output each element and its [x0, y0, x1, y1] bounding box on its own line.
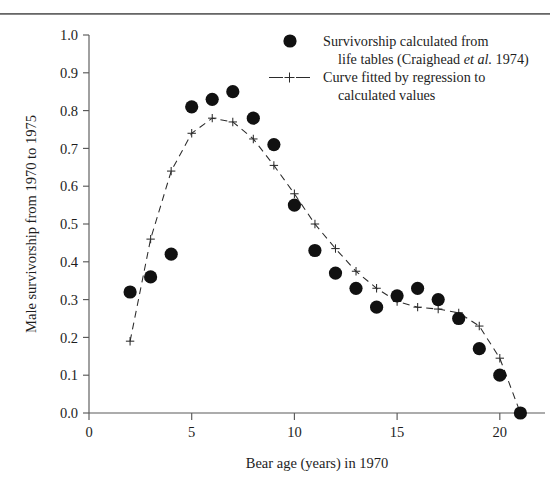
survivorship-data-point-series	[124, 85, 528, 420]
data-point-marker	[124, 285, 137, 298]
y-tick-label: 0.0	[60, 405, 78, 421]
data-point-marker	[473, 342, 486, 355]
y-tick-label: 0.9	[60, 65, 78, 81]
data-point-marker	[185, 100, 198, 113]
y-axis-tick-labels: 0.00.10.20.30.40.50.60.70.80.91.0	[60, 27, 79, 421]
x-tick-label: 5	[188, 424, 195, 440]
y-tick-label: 0.4	[60, 254, 79, 270]
fitted-curve-plus-marker	[290, 190, 298, 198]
legend-entry-1-line-2: calculated values	[338, 87, 436, 103]
data-point-marker	[206, 93, 219, 106]
data-point-marker	[247, 112, 260, 125]
legend-marker-filled-circle	[283, 34, 296, 47]
y-axis-title: Male survivorship from 1970 to 1975	[23, 115, 39, 333]
y-tick-label: 1.0	[60, 27, 78, 43]
data-point-marker	[144, 270, 157, 283]
x-tick-label: 0	[85, 424, 92, 440]
data-point-marker	[432, 293, 445, 306]
chart-legend: Survivorship calculated from life tables…	[269, 33, 529, 103]
fitted-curve-line	[130, 118, 520, 413]
data-point-marker	[452, 312, 465, 325]
data-point-marker	[308, 244, 321, 257]
y-tick-label: 0.1	[60, 367, 78, 383]
legend-entry-1-line-1: Curve fitted by regression to	[323, 69, 485, 85]
x-axis-title: Bear age (years) in 1970	[246, 455, 389, 472]
fitted-curve-plus-marker	[167, 167, 175, 175]
fitted-curve-plus-marker	[208, 114, 216, 122]
fitted-curve-plus-marker	[413, 303, 421, 311]
data-point-marker	[391, 289, 404, 302]
fitted-curve-plus-marker	[146, 235, 154, 243]
data-point-marker	[226, 85, 239, 98]
legend-entry-0-line-2: life tables (Craighead et al. 1974)	[338, 51, 529, 68]
fitted-curve-plus-marker	[496, 354, 504, 362]
x-tick-label: 15	[390, 424, 405, 440]
fitted-curve-plus-marker	[270, 161, 278, 169]
fitted-curve-plus-marker	[249, 135, 257, 143]
fitted-regression-curve-series	[126, 114, 525, 417]
x-tick-label: 20	[493, 424, 508, 440]
axes-group	[83, 35, 545, 420]
legend-entry-0-line-1: Survivorship calculated from	[323, 33, 488, 49]
fitted-curve-plus-marker	[126, 337, 134, 345]
fitted-curve-plus-marker	[475, 322, 483, 330]
y-tick-label: 0.2	[60, 330, 78, 346]
y-tick-label: 0.7	[60, 141, 78, 157]
y-tick-label: 0.5	[60, 216, 78, 232]
data-point-marker	[349, 282, 362, 295]
survivorship-scatter-chart: 0.00.10.20.30.40.50.60.70.80.91.0 051015…	[0, 0, 550, 499]
data-point-marker	[165, 248, 178, 261]
fitted-curve-plus-marker	[188, 129, 196, 137]
x-axis-ticks	[89, 413, 500, 420]
legend-entry-0-line-2-pre: life tables (Craighead	[338, 51, 464, 68]
legend-entry-0-citation-year: 1974)	[492, 51, 529, 68]
x-axis-tick-labels: 05101520	[85, 424, 507, 440]
legend-marker-plus-dashed-line	[269, 73, 310, 83]
data-point-marker	[514, 406, 527, 419]
x-tick-label: 10	[287, 424, 302, 440]
legend-entry-0-citation-etal: et al.	[464, 51, 492, 67]
figure-container: 0.00.10.20.30.40.50.60.70.80.91.0 051015…	[0, 0, 550, 499]
data-point-marker	[267, 138, 280, 151]
y-tick-label: 0.3	[60, 292, 78, 308]
data-point-marker	[329, 267, 342, 280]
fitted-curve-plus-marker	[352, 267, 360, 275]
y-tick-label: 0.8	[60, 103, 78, 119]
data-point-marker	[370, 301, 383, 314]
y-axis-ticks	[83, 35, 89, 413]
y-tick-label: 0.6	[60, 178, 78, 194]
data-point-marker	[288, 199, 301, 212]
data-point-marker	[411, 282, 424, 295]
data-point-marker	[493, 369, 506, 382]
